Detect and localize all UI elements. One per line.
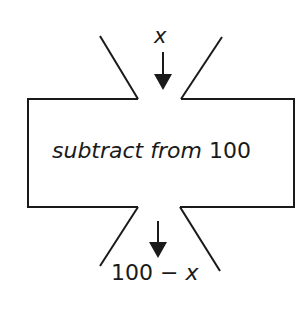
input-funnel-left [100,36,138,99]
output-label: 100 − x [111,260,198,285]
output-variable-text: x [185,260,198,285]
input-funnel-right [181,37,222,99]
function-machine-diagram: x subtract from 100 100 − x [0,0,302,331]
machine-operation-text: subtract from [52,138,202,163]
machine-operand-text: 100 [202,138,251,163]
output-funnel-left [100,207,138,266]
input-arrow-icon [154,52,172,90]
input-label: x [154,24,166,48]
machine-label: subtract from 100 [52,138,272,163]
output-expression-text: 100 − [111,260,185,285]
output-arrow-icon [149,221,167,258]
